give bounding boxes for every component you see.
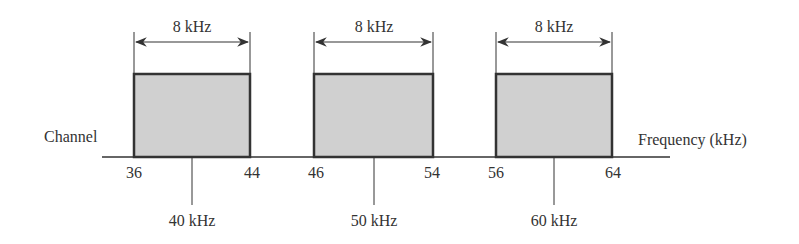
svg-text:36: 36	[126, 164, 142, 181]
svg-text:54: 54	[424, 164, 440, 181]
fdm-diagram: Channel Frequency (kHz) 8 kHz 36 44 40 k…	[0, 0, 799, 244]
svg-text:46: 46	[308, 164, 324, 181]
svg-text:64: 64	[605, 164, 621, 181]
channel-band-3: 8 kHz 56 64 60 kHz	[488, 18, 621, 229]
svg-text:8 kHz: 8 kHz	[355, 18, 394, 35]
frequency-label: Frequency (kHz)	[638, 131, 747, 149]
svg-text:40 kHz: 40 kHz	[169, 212, 216, 229]
channel-label: Channel	[44, 128, 98, 145]
svg-text:8 kHz: 8 kHz	[173, 18, 212, 35]
svg-text:44: 44	[244, 164, 260, 181]
channel-band-1: 8 kHz 36 44 40 kHz	[126, 18, 260, 229]
svg-text:50 kHz: 50 kHz	[351, 212, 398, 229]
svg-text:56: 56	[488, 164, 504, 181]
svg-text:8 kHz: 8 kHz	[535, 18, 574, 35]
svg-text:60 kHz: 60 kHz	[531, 212, 578, 229]
channel-band-2: 8 kHz 46 54 50 kHz	[308, 18, 440, 229]
